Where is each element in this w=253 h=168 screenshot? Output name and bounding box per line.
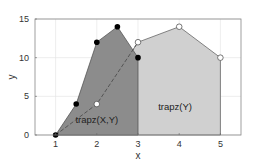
y-tick-label: 15 — [19, 14, 29, 24]
annotation-trapz-xy: trapz(X,Y) — [75, 114, 118, 125]
filled-marker — [94, 39, 100, 45]
open-marker — [135, 39, 141, 45]
open-marker — [94, 101, 100, 107]
open-marker — [176, 24, 182, 30]
trapz-chart: 12345051015 x y trapz(X,Y) trapz(Y) — [0, 0, 253, 168]
x-tick-label: 3 — [135, 139, 140, 149]
y-axis-label: y — [6, 75, 17, 80]
x-axis-label: x — [136, 150, 141, 161]
y-tick-label: 5 — [24, 91, 29, 101]
x-tick-label: 1 — [53, 139, 58, 149]
filled-marker — [73, 101, 79, 107]
filled-marker — [115, 24, 121, 30]
y-tick-label: 10 — [19, 53, 29, 63]
x-tick-label: 4 — [177, 139, 182, 149]
annotation-trapz-y: trapz(Y) — [158, 101, 192, 112]
filled-marker — [135, 55, 141, 61]
x-tick-label: 2 — [94, 139, 99, 149]
y-tick-label: 0 — [24, 130, 29, 140]
x-tick-label: 5 — [218, 139, 223, 149]
open-marker — [218, 55, 224, 61]
